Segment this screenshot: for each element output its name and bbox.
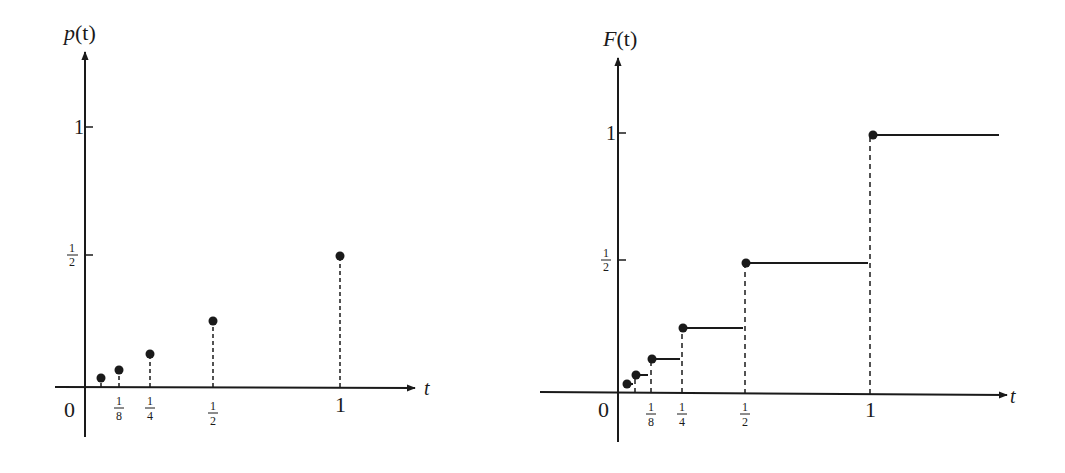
pmf-point-1 <box>336 252 345 261</box>
cdf-point-1 <box>869 131 878 140</box>
svg-text:4: 4 <box>147 409 153 423</box>
pmf-point-1-4 <box>146 350 155 359</box>
svg-text:4: 4 <box>679 415 685 429</box>
cdf-point-1-4 <box>679 324 688 333</box>
cdf-points <box>623 131 878 389</box>
cdf-x-tick-label-half: 1 2 <box>740 400 750 429</box>
cdf-y-tick-label-1: 1 <box>606 122 616 144</box>
pmf-y-tick-label-half: 1 2 <box>67 241 78 269</box>
cdf-x-tick-label-eighth: 1 8 <box>646 400 656 429</box>
svg-text:1: 1 <box>69 241 75 255</box>
svg-text:1: 1 <box>648 400 654 414</box>
svg-text:1: 1 <box>742 400 748 414</box>
pmf-x-label: t <box>424 377 430 399</box>
svg-text:2: 2 <box>69 255 75 269</box>
cdf-y-label: F(t) <box>602 26 637 51</box>
pmf-y-label: p(t) <box>62 20 96 45</box>
pmf-point-1-16 <box>97 374 106 383</box>
cdf-point-1-16 <box>632 371 641 380</box>
pmf-points <box>97 252 345 383</box>
svg-text:8: 8 <box>648 415 654 429</box>
pmf-x-tick-label-1: 1 <box>335 392 346 417</box>
pmf-plot: p(t) t 0 1 1 2 1 8 1 4 1 2 1 <box>55 20 430 437</box>
svg-text:2: 2 <box>603 260 609 274</box>
figure: p(t) t 0 1 1 2 1 8 1 4 1 2 1 <box>0 0 1065 473</box>
pmf-point-1-2 <box>209 317 218 326</box>
pmf-x-tick-label-eighth: 1 8 <box>114 394 124 423</box>
pmf-x-tick-label-quarter: 1 4 <box>145 394 155 423</box>
pmf-x-tick-label-half: 1 2 <box>208 399 218 428</box>
cdf-x-label: t <box>1010 385 1016 407</box>
svg-text:1: 1 <box>603 246 609 260</box>
cdf-x-tick-label-quarter: 1 4 <box>677 400 687 429</box>
cdf-point-1-32 <box>623 380 632 389</box>
pmf-point-1-8 <box>115 366 124 375</box>
pmf-x-axis <box>55 387 415 388</box>
pmf-y-tick-label-1: 1 <box>74 116 84 138</box>
cdf-x-tick-label-1: 1 <box>865 397 876 422</box>
svg-text:1: 1 <box>679 400 685 414</box>
svg-text:2: 2 <box>210 414 216 428</box>
pmf-origin-label: 0 <box>64 397 75 422</box>
cdf-plot: F(t) t 0 1 1 2 1 8 1 4 1 2 1 <box>540 26 1016 442</box>
svg-text:1: 1 <box>210 399 216 413</box>
svg-text:2: 2 <box>742 415 748 429</box>
pmf-stems <box>101 256 340 387</box>
svg-text:8: 8 <box>116 409 122 423</box>
svg-text:1: 1 <box>116 394 122 408</box>
cdf-point-1-2 <box>742 259 751 268</box>
cdf-jump-lines <box>635 136 870 394</box>
cdf-origin-label: 0 <box>598 397 609 422</box>
cdf-x-axis <box>540 392 1007 395</box>
cdf-y-tick-label-half: 1 2 <box>601 246 611 274</box>
cdf-point-1-8 <box>648 355 657 364</box>
svg-text:1: 1 <box>147 394 153 408</box>
